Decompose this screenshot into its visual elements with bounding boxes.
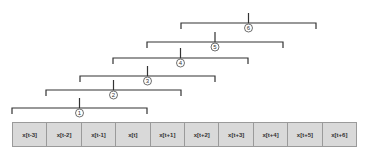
cell-x-t+5: x[t+5] [288, 123, 322, 146]
cell-x-t-3: x[t-3] [13, 123, 47, 146]
bracket-2: 2 [46, 80, 181, 99]
cell-x-t+3: x[t+3] [219, 123, 253, 146]
cell-x-t+4: x[t+4] [254, 123, 288, 146]
bracket-1: 1 [12, 98, 147, 117]
bracket-5: 5 [147, 32, 283, 51]
cell-x-t+6: x[t+6] [323, 123, 356, 146]
bracket-4: 4 [113, 48, 248, 67]
bracket-6: 6 [181, 13, 316, 32]
bracket-3: 3 [80, 66, 215, 85]
cell-x-t+1: x[t+1] [151, 123, 185, 146]
cell-x-t-2: x[t-2] [47, 123, 81, 146]
cell-x-t: x[t] [116, 123, 150, 146]
cell-x-t+2: x[t+2] [185, 123, 219, 146]
cell-x-t-1: x[t-1] [82, 123, 116, 146]
sequence-cells: x[t-3] x[t-2] x[t-1] x[t] x[t+1] x[t+2] … [12, 122, 357, 147]
